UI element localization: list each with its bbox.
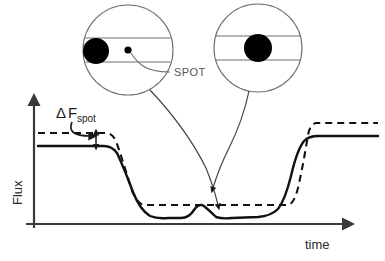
lightcurve-group xyxy=(38,123,378,218)
right-inset-planet-disk xyxy=(244,34,272,62)
delta-flux-subscript: spot xyxy=(77,113,96,124)
figure-canvas: Flux time Δ F spot xyxy=(0,0,385,261)
y-axis-label: Flux xyxy=(10,180,25,205)
axes-group: Flux time xyxy=(10,104,344,252)
right-inset-planet-on-band xyxy=(214,4,302,92)
left-inset-to-transit-bottom-arrow xyxy=(150,90,218,205)
transit-lightcurve-figure: Flux time Δ F spot xyxy=(0,0,385,261)
left-inset-planet-disk xyxy=(83,38,109,64)
spot-label: SPOT xyxy=(174,66,206,78)
delta-symbol: Δ xyxy=(56,104,66,121)
delta-flux-main-letter: F xyxy=(68,104,77,121)
left-inset-spot-dot xyxy=(124,46,131,53)
left-inset-spot-and-planet: SPOT xyxy=(83,5,206,95)
right-inset-to-spot-bump-arrow xyxy=(213,91,249,188)
x-axis-label: time xyxy=(305,237,330,252)
delta-flux-annotation: Δ F spot xyxy=(56,104,96,145)
callout-arrows-group xyxy=(150,90,249,205)
